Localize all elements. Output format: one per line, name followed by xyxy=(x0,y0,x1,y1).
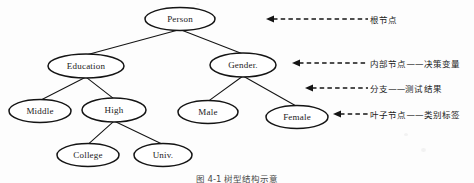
figure-decision-tree: PersonEducationGender.MiddleHighMaleFema… xyxy=(0,0,474,183)
tree-node-female[interactable] xyxy=(266,106,328,129)
annotation-arrow-leaf-node xyxy=(333,111,368,118)
tree-node-male[interactable] xyxy=(178,101,238,124)
tree-edge-education-to-middle xyxy=(40,77,86,100)
annotation-arrow-layer xyxy=(266,16,368,118)
tree-node-univ[interactable] xyxy=(134,144,192,167)
tree-node-gender[interactable] xyxy=(210,53,276,77)
scan-speck xyxy=(196,3,199,5)
annotation-arrow-root-node xyxy=(266,16,368,23)
tree-node-college[interactable] xyxy=(57,144,119,167)
tree-edge-person-to-gender xyxy=(180,30,243,54)
tree-node-person[interactable] xyxy=(145,8,215,31)
annotation-arrow-internal-node xyxy=(292,60,368,67)
tree-edge-gender-to-female xyxy=(243,76,297,106)
scan-speck xyxy=(404,133,408,136)
tree-edge-layer xyxy=(40,30,297,145)
tree-node-education[interactable] xyxy=(48,54,124,78)
scan-speck xyxy=(421,148,426,152)
annotation-text-leaf-node: 叶子节点——类别标签 xyxy=(370,108,460,120)
tree-edge-education-to-high xyxy=(86,77,114,99)
annotation-text-internal-node: 内部节点——决策变量 xyxy=(370,57,460,69)
annotation-arrow-branch xyxy=(305,85,368,92)
tree-edge-high-to-college xyxy=(88,121,114,144)
annotation-text-branch: 分支——测试结果 xyxy=(370,82,442,94)
tree-edge-high-to-univ xyxy=(114,121,163,144)
tree-edge-person-to-education xyxy=(86,30,180,55)
figure-caption: 图 4-1 树型结构示意 xyxy=(0,172,474,183)
tree-node-layer xyxy=(9,8,328,167)
tree-edge-gender-to-male xyxy=(208,76,243,101)
annotation-text-root-node: 根节点 xyxy=(370,13,397,25)
tree-node-high[interactable] xyxy=(82,98,146,122)
tree-node-middle[interactable] xyxy=(9,100,71,123)
